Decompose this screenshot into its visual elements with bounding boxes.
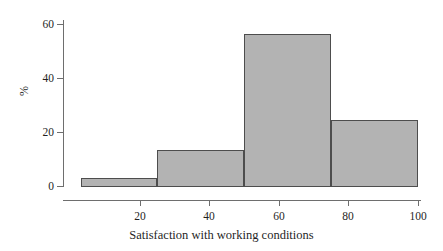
x-axis-tick-label: 20 [120, 210, 160, 222]
histogram-bar [331, 120, 418, 187]
x-axis-title: Satisfaction with working conditions [0, 228, 443, 242]
y-axis-tick-label: 40 [14, 73, 54, 85]
x-axis-tick [209, 200, 210, 206]
histogram-figure: 0 20 40 60 20 40 60 80 100 % Satisfactio… [0, 0, 443, 251]
histogram-bar [81, 178, 157, 187]
y-axis-tick-label: 20 [14, 127, 54, 139]
x-axis-tick [418, 200, 419, 206]
y-axis-tick [57, 186, 63, 187]
x-axis-tick [279, 200, 280, 206]
y-axis-line [63, 20, 64, 187]
y-axis-tick [57, 24, 63, 25]
y-axis-title: % [18, 86, 30, 96]
x-axis-tick [348, 200, 349, 206]
histogram-bar [244, 34, 331, 187]
x-axis-tick [140, 200, 141, 206]
y-axis-tick-label: 60 [14, 19, 54, 31]
y-axis-tick [57, 78, 63, 79]
x-axis-tick-label: 40 [189, 210, 229, 222]
x-axis-tick-label: 80 [328, 210, 368, 222]
plot-area: 0 20 40 60 20 40 60 80 100 % Satisfactio… [0, 0, 443, 251]
x-axis-line [63, 200, 421, 201]
y-axis-tick-label: 0 [14, 181, 54, 193]
y-axis-tick [57, 132, 63, 133]
x-axis-tick-label: 60 [259, 210, 299, 222]
x-axis-tick-label: 100 [398, 210, 438, 222]
histogram-bar [157, 150, 244, 187]
